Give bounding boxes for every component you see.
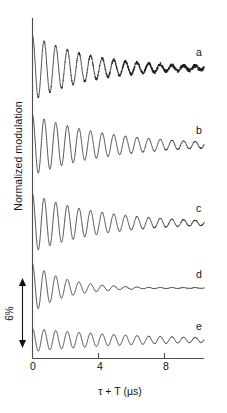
x-axis-label: τ + T (µs) xyxy=(33,385,207,397)
x-tick-label-4: 4 xyxy=(90,360,110,372)
y-axis-label: Normalized modulation xyxy=(12,81,24,231)
scale-bar-arrow-up xyxy=(19,278,26,286)
x-tick-label-0: 0 xyxy=(23,360,43,372)
x-tick-label-8: 8 xyxy=(156,360,176,372)
trace-label-c: c xyxy=(196,202,201,214)
trace-b xyxy=(33,115,205,174)
trace-c xyxy=(33,194,205,250)
trace-label-d: d xyxy=(196,268,202,280)
trace-label-e: e xyxy=(196,320,202,332)
trace-label-b: b xyxy=(196,124,202,136)
plot-canvas xyxy=(0,0,227,413)
scale-bar-label: 6% xyxy=(4,297,15,331)
eseem-figure: Normalized modulation 6% 0 4 8 τ + T (µs… xyxy=(0,0,227,413)
trace-a xyxy=(33,36,205,98)
trace-d xyxy=(33,264,205,309)
scale-bar-arrow-down xyxy=(19,340,26,348)
trace-label-a: a xyxy=(196,46,202,58)
trace-e xyxy=(33,328,205,351)
